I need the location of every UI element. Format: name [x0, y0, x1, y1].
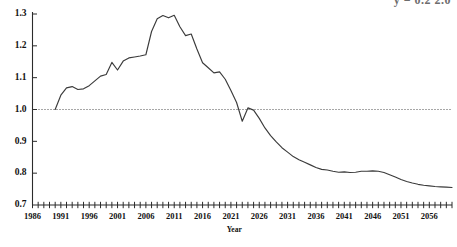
- y-axis-tick-labels: 0.70.80.91.01.11.21.3: [15, 8, 27, 209]
- x-tick-label: 1986: [24, 211, 41, 221]
- x-tick-label: 2031: [279, 211, 296, 221]
- x-tick-label: 2001: [109, 211, 126, 221]
- y-tick-label: 1.1: [15, 72, 27, 82]
- plot-area: 0.70.80.91.01.11.21.3 198619911996200120…: [0, 0, 457, 247]
- y-tick-label: 0.8: [15, 167, 27, 177]
- x-tick-label: 2011: [166, 211, 183, 221]
- x-tick-label: 2026: [251, 211, 268, 221]
- x-tick-label: 2056: [421, 211, 438, 221]
- x-tick-label: 1991: [52, 211, 69, 221]
- x-tick-label: 2006: [137, 211, 154, 221]
- x-tick-label: 2016: [194, 211, 211, 221]
- y-tick-label: 1.0: [15, 104, 27, 114]
- x-tick-label: 2046: [364, 211, 381, 221]
- y-tick-label: 1.3: [15, 8, 27, 18]
- x-tick-label: 2051: [392, 211, 409, 221]
- y-tick-label: 0.9: [15, 136, 27, 146]
- y-tick-label: 1.2: [15, 40, 27, 50]
- y-axis-tick-marks: [33, 14, 38, 173]
- x-axis-title: Year: [227, 225, 243, 234]
- x-tick-label: 2036: [307, 211, 324, 221]
- chart-container: y = 0.2 2.0 0.70.80.91.01.11.21.3 198619…: [0, 0, 457, 247]
- x-tick-label: 1996: [81, 211, 98, 221]
- x-tick-label: 2021: [222, 211, 239, 221]
- data-series-line: [55, 15, 452, 187]
- x-axis-tick-labels: 1986199119962001200620112016202120262031…: [24, 211, 438, 221]
- y-tick-label: 0.7: [15, 199, 27, 209]
- x-tick-label: 2041: [336, 211, 353, 221]
